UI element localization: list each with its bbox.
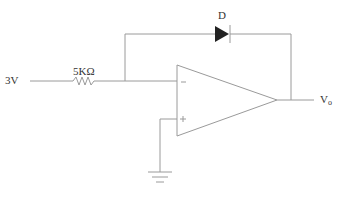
- noninverting-ground-wire: [160, 119, 177, 172]
- resistor: [73, 77, 97, 85]
- noninverting-sign: [180, 116, 186, 122]
- input-voltage-label: 3V: [5, 75, 18, 86]
- opamp: [177, 65, 277, 136]
- resistor-label: 5KΩ: [73, 66, 95, 77]
- diode-label: D: [218, 10, 226, 21]
- diode-icon: [215, 26, 229, 42]
- output-label: Vo: [320, 94, 332, 107]
- circuit-diagram: [0, 0, 353, 197]
